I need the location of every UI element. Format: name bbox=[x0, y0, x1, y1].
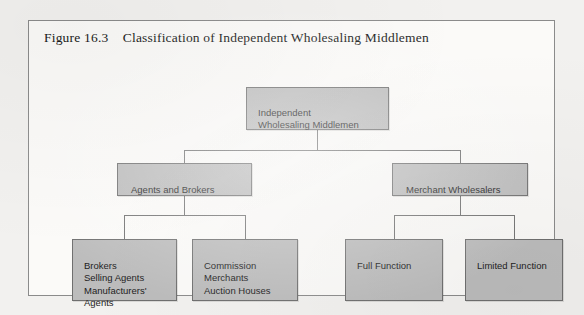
node-limited-function: Limited Function bbox=[465, 239, 563, 301]
connector-drop-full bbox=[394, 215, 395, 240]
node-limited-function-label: Limited Function bbox=[477, 260, 562, 272]
connector-drop-limited bbox=[514, 215, 515, 240]
connector-drop-commission bbox=[245, 215, 246, 240]
node-brokers-group-label: Brokers Selling Agents Manufacturers' Ag… bbox=[84, 260, 176, 309]
node-commission-group-label: Commission Merchants Auction Houses bbox=[204, 260, 297, 297]
node-agents-brokers-label: Agents and Brokers bbox=[131, 184, 251, 196]
node-agents-and-brokers: Agents and Brokers bbox=[117, 163, 252, 196]
connector-drop-merchants bbox=[460, 150, 461, 164]
node-full-function: Full Function bbox=[345, 239, 443, 301]
node-commission-merchants-auction-houses: Commission Merchants Auction Houses bbox=[192, 239, 298, 301]
figure-title: Figure 16.3 Classification of Independen… bbox=[44, 30, 429, 46]
connector-merchants-bus bbox=[394, 215, 514, 216]
node-brokers-selling-agents-manufacturers-agents: Brokers Selling Agents Manufacturers' Ag… bbox=[72, 239, 177, 301]
node-merchant-wholesalers: Merchant Wholesalers bbox=[392, 163, 528, 196]
connector-drop-brokers bbox=[124, 215, 125, 240]
connector-agents-bus bbox=[124, 215, 245, 216]
node-merchant-wholesalers-label: Merchant Wholesalers bbox=[406, 184, 527, 196]
figure-page: Independent Wholesaling Middlemen Agents… bbox=[0, 0, 584, 315]
connector-drop-agents bbox=[184, 150, 185, 164]
connector-level1-bus bbox=[184, 150, 461, 151]
node-root-label: Independent Wholesaling Middlemen bbox=[258, 107, 388, 131]
figure-frame: Independent Wholesaling Middlemen Agents… bbox=[28, 20, 555, 296]
node-independent-wholesaling-middlemen: Independent Wholesaling Middlemen bbox=[246, 87, 389, 130]
node-full-function-label: Full Function bbox=[357, 260, 442, 272]
